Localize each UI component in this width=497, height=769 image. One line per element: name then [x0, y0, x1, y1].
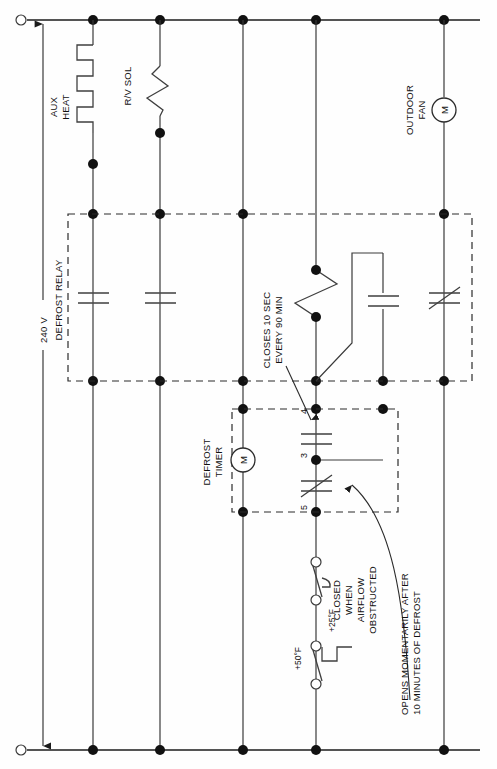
terminal-circle-icon-pressure-top [311, 557, 321, 567]
aux-heat-resistor-icon [77, 45, 93, 133]
terminal-circle-icon-pressure-bottom [311, 595, 321, 605]
bimetal-element-icon [322, 647, 352, 661]
defrost-timer-contacts: 4 3 5 [299, 409, 383, 510]
outdoor-fan-label-line2: FAN [416, 100, 427, 119]
defrost-timer-label-line2: TIMER [213, 447, 224, 478]
supply-voltage-label: 240 V [38, 317, 49, 343]
defrost-limit-note-line2: 10 MINUTES OF DEFROST [411, 591, 422, 715]
pressure-switch-blade [313, 566, 322, 597]
junction-dot-icon [311, 455, 321, 465]
defrost-relay-coil-icon [295, 270, 337, 317]
wiring-diagram: 240 V AUX HEAT R/V SOL [0, 0, 497, 769]
timer-terminal-4-label: 4 [299, 409, 309, 414]
aux-heat-label-line2: HEAT [60, 94, 71, 119]
terminal-circle-icon-top [16, 15, 26, 25]
timer-contact-note-line1: CLOSES 10 SEC [261, 292, 272, 369]
thermostat-switch-blade [313, 650, 322, 681]
terminal-circle-icon-thermo-top [311, 641, 321, 651]
junction-dot-icon [88, 745, 98, 755]
defrost-limit-note-line1: OPENS MOMENTARILY AFTER [399, 573, 410, 715]
terminal-circle-icon-thermo-bottom [311, 679, 321, 689]
timer-terminal-5-label: 5 [299, 505, 309, 510]
junction-dot-icon [238, 745, 248, 755]
junction-dot-icon [311, 265, 321, 275]
outdoor-fan-label-line1: OUTDOOR [404, 85, 415, 135]
thermostat-open-temp-label: +50°F [293, 647, 303, 670]
pressure-switch-note-line3: AIRFLOW [355, 578, 366, 623]
terminal-circle-icon-bottom [16, 745, 26, 755]
pressure-switch-note-line2: WHEN [343, 585, 354, 615]
defrost-timer-motor-label: M [238, 456, 249, 464]
timer-contact-annotation: CLOSES 10 SEC EVERY 90 MIN [261, 292, 311, 420]
thermostat-close-temp-label: +25°F [327, 609, 337, 632]
airflow-pressure-switch: CLOSED WHEN AIRFLOW OBSTRUCTED [311, 557, 378, 634]
junction-dot-icon [311, 312, 321, 322]
rv-sol-coil-icon [147, 66, 168, 116]
timer-contact-note-line2: EVERY 90 MIN [273, 296, 284, 364]
junction-dot-icon [155, 128, 165, 138]
junction-dot-icon [88, 159, 98, 169]
defrost-timer-label-line1: DEFROST [201, 439, 212, 486]
pressure-switch-note-line4: OBSTRUCTED [367, 566, 378, 633]
branch-aux-heat: AUX HEAT [48, 15, 98, 755]
defrost-thermostat-switch: +25°F +50°F [293, 609, 352, 689]
branch-timer-feed [238, 15, 248, 755]
supply-voltage-indicator: 240 V [38, 24, 49, 746]
aux-heat-label-line1: AUX [48, 96, 59, 117]
junction-dot-icon [155, 745, 165, 755]
relay-holding-loop [316, 253, 399, 414]
rv-sol-label: R/V SOL [122, 67, 133, 106]
schematic-canvas: 240 V AUX HEAT R/V SOL [0, 0, 497, 769]
branch-rv-solenoid: R/V SOL [122, 15, 168, 755]
defrost-relay-label: DEFROST RELAY [53, 259, 64, 340]
outdoor-fan-motor-label: M [439, 106, 450, 114]
relay-loop-left-wire [316, 253, 383, 381]
timer-terminal-3-label: 3 [299, 453, 309, 458]
junction-dot-icon [311, 745, 321, 755]
junction-dot-icon [439, 745, 449, 755]
diaphragm-icon [322, 578, 330, 587]
